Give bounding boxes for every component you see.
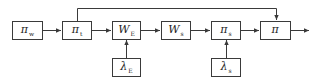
block-label: λs: [220, 61, 231, 74]
block-label: πw: [21, 24, 34, 37]
block-pi: π: [260, 21, 291, 40]
block-label: πt: [72, 24, 83, 37]
block-label: πs: [220, 24, 231, 37]
block-w-e: WE: [112, 21, 141, 40]
block-label: λE: [120, 61, 132, 74]
block-pi-w: πw: [12, 21, 43, 40]
block-pi-s: πs: [211, 21, 241, 40]
block-label: π: [271, 24, 279, 37]
block-lambda-e: λE: [112, 58, 141, 77]
block-diagram: πw πt WE Ws πs π λE λs: [0, 0, 318, 81]
block-lambda-s: λs: [211, 58, 241, 77]
arrow-pi-t-to-pi-top: [78, 9, 277, 22]
block-pi-t: πt: [62, 21, 92, 40]
block-label: Ws: [168, 24, 183, 37]
block-label: WE: [118, 24, 135, 37]
connector-lines: [0, 0, 318, 81]
block-w-s: Ws: [161, 21, 191, 40]
